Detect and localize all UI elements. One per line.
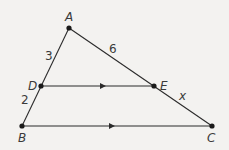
label-e: E [160,79,168,93]
label-b: B [18,131,26,145]
label-d: D [28,79,37,93]
point-d [38,83,43,88]
length-ae: 6 [109,42,117,56]
point-c [209,123,214,128]
side-ab [22,28,69,126]
point-b [19,123,24,128]
length-ec: x [178,89,187,103]
parallel-arrow-bc-icon [109,123,115,129]
length-ad: 3 [45,49,53,63]
point-e [151,83,156,88]
length-db: 2 [21,93,29,107]
point-a [66,25,71,30]
label-a: A [64,10,73,24]
triangle-diagram: A D E B C 3 2 6 x [0,0,229,150]
side-ac [69,28,212,126]
label-c: C [207,131,216,145]
parallel-arrow-de-icon [100,83,106,89]
